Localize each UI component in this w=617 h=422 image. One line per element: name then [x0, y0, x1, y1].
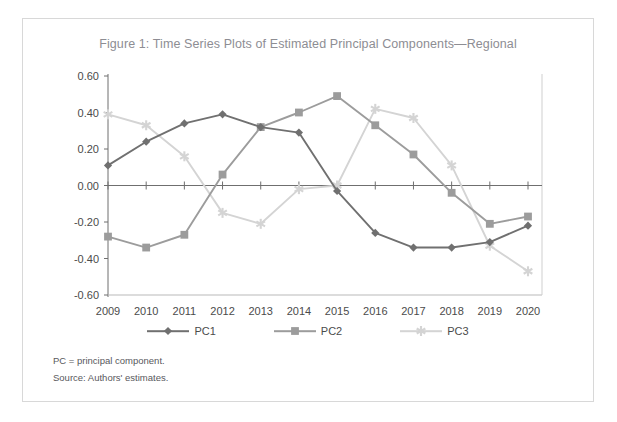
legend-entry-pc3[interactable]: PC3: [400, 325, 468, 337]
legend-label: PC1: [194, 325, 215, 337]
legend-entry-pc2[interactable]: PC2: [274, 325, 342, 337]
legend-swatch-star-icon: [400, 325, 442, 337]
chart-svg: [23, 19, 595, 403]
legend-swatch-diamond-icon: [147, 325, 189, 337]
y-axis-tick-label: -0.20: [43, 216, 99, 228]
series-line: [108, 109, 528, 271]
series-pc1: [104, 110, 532, 251]
series-line: [108, 114, 528, 247]
x-axis-tick-label: 2013: [248, 305, 272, 317]
footnote-source: Source: Authors' estimates.: [53, 372, 168, 383]
legend-entry-pc1[interactable]: PC1: [147, 325, 215, 337]
data-point-marker: [524, 266, 533, 276]
data-point-marker: [295, 109, 303, 117]
data-point-marker: [219, 171, 227, 179]
legend-label: PC3: [447, 325, 468, 337]
y-axis-tick-label: 0.40: [43, 107, 99, 119]
chart-plot-area: 0.600.400.200.00-0.20-0.40-0.60200920102…: [23, 19, 595, 403]
footnote-definition: PC = principal component.: [53, 355, 165, 366]
data-point-marker: [218, 110, 226, 118]
x-axis-tick-label: 2018: [439, 305, 463, 317]
x-axis-tick-label: 2016: [363, 305, 387, 317]
data-point-marker: [180, 231, 188, 239]
series-pc3: [104, 104, 533, 276]
chart-legend: PC1PC2PC3: [23, 325, 593, 337]
data-point-marker: [409, 243, 417, 251]
data-point-marker: [371, 121, 379, 129]
legend-marker-diamond-icon: [161, 324, 175, 338]
legend-label: PC2: [321, 325, 342, 337]
x-axis-tick-label: 2009: [96, 305, 120, 317]
y-axis-tick-label: 0.00: [43, 180, 99, 192]
data-point-marker: [417, 326, 426, 336]
x-axis-tick-label: 2020: [516, 305, 540, 317]
y-axis-tick-label: 0.20: [43, 143, 99, 155]
x-axis-tick-label: 2015: [325, 305, 349, 317]
x-axis-tick-label: 2010: [134, 305, 158, 317]
series-pc2: [104, 92, 532, 251]
data-point-marker: [104, 233, 112, 241]
figure-frame: Figure 1: Time Series Plots of Estimated…: [22, 18, 594, 402]
data-point-marker: [333, 92, 341, 100]
data-point-marker: [180, 119, 188, 127]
data-point-marker: [164, 327, 172, 335]
legend-marker-star-icon: [414, 324, 428, 338]
y-axis-tick-label: -0.60: [43, 289, 99, 301]
legend-marker-square-icon: [288, 324, 302, 338]
data-point-marker: [142, 244, 150, 252]
x-axis-tick-label: 2012: [210, 305, 234, 317]
legend-swatch-square-icon: [274, 325, 316, 337]
data-point-marker: [448, 189, 456, 197]
data-point-marker: [524, 213, 532, 221]
data-point-marker: [486, 220, 494, 228]
y-axis-tick-label: 0.60: [43, 70, 99, 82]
x-axis-tick-label: 2014: [287, 305, 311, 317]
data-point-marker: [410, 151, 418, 159]
data-point-marker: [291, 327, 299, 335]
y-axis-tick-label: -0.40: [43, 253, 99, 265]
series-line: [108, 96, 528, 247]
data-point-marker: [448, 243, 456, 251]
x-axis-tick-label: 2011: [173, 305, 197, 317]
x-axis-tick-label: 2019: [478, 305, 502, 317]
data-point-marker: [524, 222, 532, 230]
x-axis-tick-label: 2017: [401, 305, 425, 317]
